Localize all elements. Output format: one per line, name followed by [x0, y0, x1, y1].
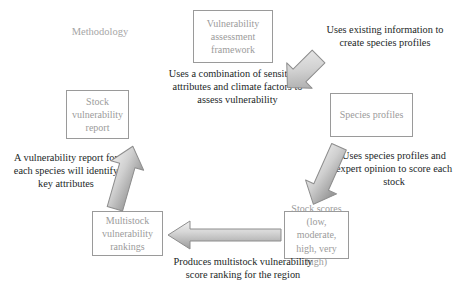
arrow-scores-to-rankings-icon	[166, 218, 284, 252]
caption-rankings-to-report: A vulnerability report for each species …	[6, 152, 126, 191]
diagram-title-label: Methodology	[53, 26, 147, 39]
caption-framework-to-species: Uses existing information to create spec…	[315, 24, 455, 50]
caption-species-to-scores: Uses species profiles and expert opinion…	[330, 150, 458, 189]
node-vulnerability-assessment-framework: Vulnerability assessment framework	[193, 10, 273, 63]
methodology-flow-diagram: Methodology Vulnerability assessment fra…	[0, 0, 458, 301]
caption-scores-to-rankings: Produces multistock vulnerability score …	[172, 256, 314, 282]
node-stock-vulnerability-report: Stock vulnerability report	[66, 90, 129, 139]
node-stock-scores: Stock scores (low, moderate, high, very …	[284, 211, 349, 259]
node-species-profiles: Species profiles	[330, 93, 413, 137]
caption-framework-description: Uses a combination of sensitivity attrib…	[166, 68, 309, 107]
node-multistock-vulnerability-rankings: Multistock vulnerability rankings	[92, 211, 163, 256]
